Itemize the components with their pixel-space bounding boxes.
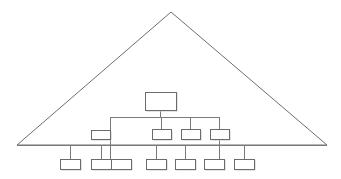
- node-leaf-1[interactable]: [61, 160, 82, 171]
- node-box[interactable]: [146, 93, 177, 111]
- node-box[interactable]: [92, 160, 112, 170]
- node-box[interactable]: [182, 130, 201, 140]
- node-mid-3[interactable]: [182, 130, 202, 141]
- level-bottom: [61, 160, 256, 171]
- node-mid-2[interactable]: [153, 130, 173, 141]
- diagram-canvas: [0, 0, 341, 179]
- node-box[interactable]: [147, 160, 167, 170]
- node-box[interactable]: [235, 160, 255, 170]
- node-root[interactable]: [146, 93, 178, 112]
- node-leaf-3[interactable]: [112, 160, 133, 171]
- level-root: [146, 93, 178, 112]
- node-box[interactable]: [176, 160, 196, 170]
- diagram-svg: [0, 0, 341, 179]
- node-leaf-6[interactable]: [205, 160, 226, 171]
- node-box[interactable]: [92, 131, 111, 140]
- node-box[interactable]: [205, 160, 225, 170]
- node-mid-1[interactable]: [92, 131, 112, 141]
- node-box[interactable]: [112, 160, 132, 170]
- triangle-boundary-shape: [17, 12, 327, 145]
- nodes-group: [61, 93, 256, 171]
- node-box[interactable]: [61, 160, 81, 170]
- node-mid-4[interactable]: [211, 130, 231, 141]
- node-leaf-7[interactable]: [235, 160, 256, 171]
- node-box[interactable]: [211, 130, 230, 140]
- node-leaf-4[interactable]: [147, 160, 168, 171]
- node-leaf-5[interactable]: [176, 160, 197, 171]
- node-box[interactable]: [153, 130, 172, 140]
- node-leaf-2[interactable]: [92, 160, 113, 171]
- level-middle: [92, 130, 231, 141]
